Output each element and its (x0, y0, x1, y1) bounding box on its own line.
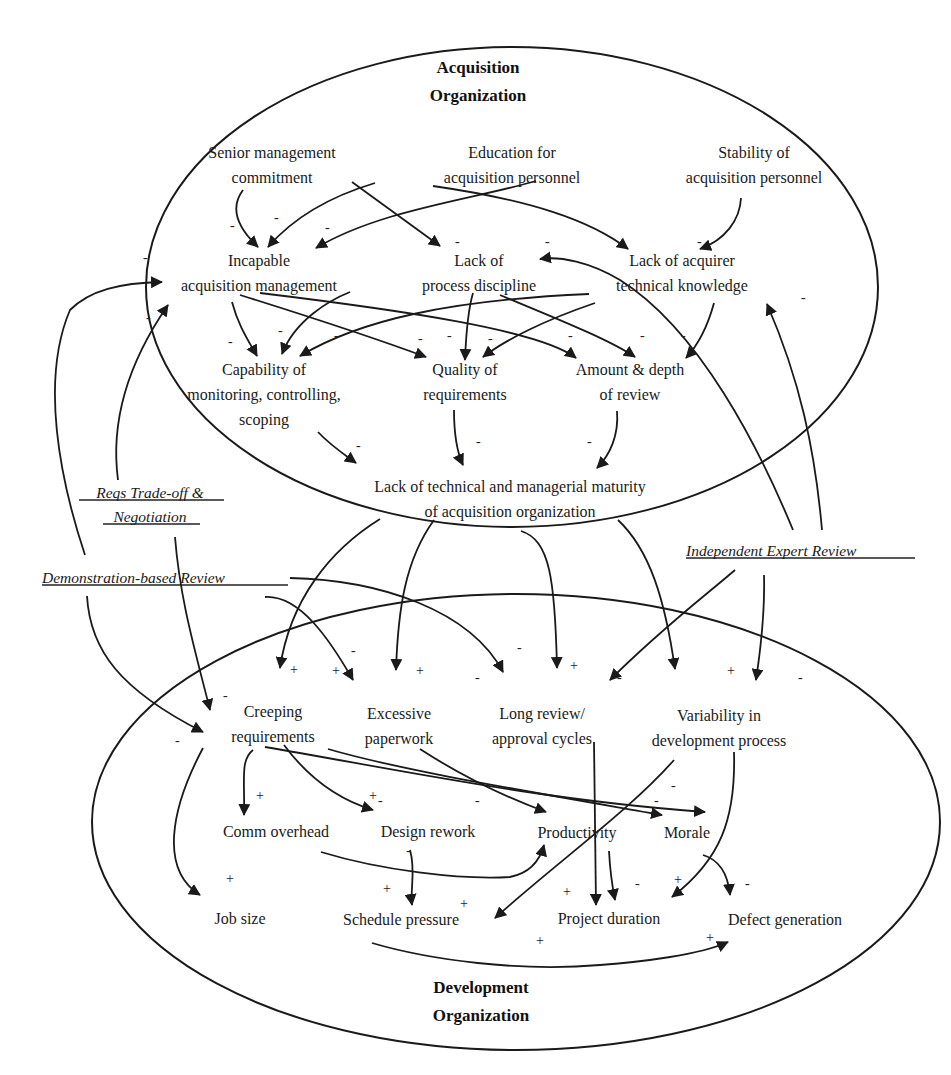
edge-creeping-to-rework (284, 745, 373, 810)
policy-demonstration-based-review: Demonstration-based Review (41, 569, 288, 586)
svg-text:-: - (447, 328, 452, 343)
svg-text:-: - (635, 876, 640, 891)
edge-creeping-to-jobsize (174, 748, 203, 895)
svg-text:Capability of: Capability of (222, 361, 307, 379)
svg-text:-: - (455, 234, 460, 249)
edge-maturity-to-longreview (521, 531, 557, 668)
svg-text:Amount & depth: Amount & depth (576, 361, 684, 379)
edge-senior-to-incapable (236, 190, 258, 247)
svg-text:monitoring, controlling,: monitoring, controlling, (187, 386, 340, 404)
node-education-for-acquisition-personnel: Education for acquisition personnel (444, 144, 581, 187)
development-org-title-2: Organization (433, 1006, 530, 1025)
edge-creeping-to-comm (244, 750, 253, 815)
edge-discipline-to-capability (282, 292, 350, 354)
node-stability-of-acquisition-personnel: Stability of acquisition personnel (686, 144, 823, 187)
acquisition-org-title-1: Acquisition (436, 58, 520, 77)
svg-text:-: - (406, 843, 411, 858)
node-morale: Morale (664, 824, 710, 841)
svg-text:+: + (674, 872, 682, 887)
edge-stability-to-knowledge (700, 198, 741, 249)
svg-text:-: - (475, 670, 480, 685)
node-design-rework: Design rework (381, 823, 476, 841)
svg-text:-: - (325, 220, 330, 235)
svg-text:Senior management: Senior management (208, 144, 336, 162)
edge-incapable-to-amount (260, 293, 576, 358)
edge-expert-to-variability (756, 575, 764, 680)
svg-text:-: - (230, 218, 235, 233)
node-long-review-approval-cycles: Long review/ approval cycles (492, 705, 592, 748)
svg-text:+: + (226, 871, 234, 886)
edge-knowledge-to-amount (686, 303, 714, 358)
svg-text:-: - (175, 733, 180, 748)
svg-text:acquisition personnel: acquisition personnel (686, 169, 823, 187)
node-lack-of-technical-managerial-maturity: Lack of technical and managerial maturit… (374, 478, 645, 521)
svg-text:+: + (706, 930, 714, 945)
svg-text:-: - (146, 310, 151, 325)
edge-capability-to-maturity (318, 432, 356, 463)
edge-longreview-to-duration (594, 742, 596, 905)
svg-text:-: - (475, 793, 480, 808)
node-project-duration: Project duration (558, 910, 661, 928)
svg-text:-: - (545, 234, 550, 249)
svg-text:-: - (228, 334, 233, 349)
svg-text:-: - (681, 328, 686, 343)
svg-text:Reqs Trade-off &: Reqs Trade-off & (95, 484, 204, 501)
svg-text:of review: of review (600, 386, 661, 403)
edge-schedule-to-defect (372, 942, 728, 967)
svg-text:-: - (654, 793, 659, 808)
svg-text:-: - (223, 688, 228, 703)
svg-text:Education for: Education for (468, 144, 556, 161)
policy-reqs-tradeoff-negotiation: Reqs Trade-off & Negotiation (79, 484, 224, 525)
svg-text:of acquisition organization: of acquisition organization (424, 503, 595, 521)
edge-tradeoff-to-incapable (116, 305, 168, 480)
policy-independent-expert-review: Independent Expert Review (685, 542, 915, 559)
edge-expert-to-longreview (610, 570, 735, 680)
svg-text:-: - (568, 328, 573, 343)
edge-maturity-to-creeping (280, 519, 380, 668)
edge-incapable-to-quality (240, 295, 426, 357)
svg-text:-: - (798, 670, 803, 685)
svg-text:-: - (671, 778, 676, 793)
svg-text:requirements: requirements (423, 386, 507, 404)
svg-text:+: + (383, 881, 391, 896)
edge-paperwork-to-productivity (420, 749, 546, 812)
svg-text:-: - (378, 793, 383, 808)
svg-text:+: + (570, 658, 578, 673)
edge-senior-to-discipline (352, 182, 440, 246)
svg-text:process discipline: process discipline (422, 277, 536, 295)
svg-text:-: - (356, 438, 361, 453)
edge-amount-to-maturity (597, 411, 617, 468)
svg-text:+: + (369, 788, 377, 803)
svg-text:Variability in: Variability in (677, 707, 761, 725)
svg-text:-: - (488, 331, 493, 346)
svg-text:+: + (727, 663, 735, 678)
svg-text:Incapable: Incapable (228, 252, 290, 270)
svg-text:-: - (517, 640, 522, 655)
edge-incapable-to-capability (232, 302, 257, 356)
svg-text:-: - (476, 434, 481, 449)
causal-loop-diagram: Acquisition Organization Development Org… (0, 0, 951, 1075)
edge-rework-to-schedule (410, 850, 413, 905)
svg-text:-: - (274, 210, 279, 225)
svg-text:-: - (587, 434, 592, 449)
edge-education-to-knowledge (433, 186, 628, 249)
svg-text:+: + (563, 884, 571, 899)
svg-text:Independent Expert Review: Independent Expert Review (685, 542, 857, 559)
node-excessive-paperwork: Excessive paperwork (365, 705, 433, 748)
svg-text:Excessive: Excessive (367, 705, 431, 722)
svg-text:approval cycles: approval cycles (492, 730, 592, 748)
node-variability-in-development-process: Variability in development process (652, 707, 787, 750)
svg-text:acquisition personnel: acquisition personnel (444, 169, 581, 187)
svg-text:+: + (536, 933, 544, 948)
svg-text:Lack of acquirer: Lack of acquirer (629, 252, 735, 270)
node-comm-overhead: Comm overhead (223, 823, 329, 840)
svg-text:-: - (617, 234, 622, 249)
svg-text:commitment: commitment (232, 169, 313, 186)
node-senior-management-commitment: Senior management commitment (208, 144, 336, 186)
svg-text:-: - (143, 250, 148, 265)
svg-text:-: - (418, 331, 423, 346)
svg-text:+: + (460, 896, 468, 911)
edge-discipline-to-amount (500, 295, 635, 357)
node-schedule-pressure: Schedule pressure (343, 911, 459, 929)
node-defect-generation: Defect generation (728, 911, 842, 929)
